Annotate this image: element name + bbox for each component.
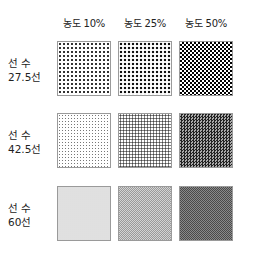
halftone-swatch-60-25 bbox=[118, 186, 172, 241]
halftone-swatch-42-5-10 bbox=[57, 113, 111, 168]
row-label-27-5: 선 수 27.5선 bbox=[8, 56, 50, 84]
row-label-title: 선 수 bbox=[8, 201, 50, 215]
row-label-title: 선 수 bbox=[8, 128, 50, 142]
row-label-value: 42.5선 bbox=[8, 142, 50, 156]
row-label-value: 60선 bbox=[8, 215, 50, 229]
column-header-density-50: 농도 50% bbox=[176, 15, 236, 30]
row-label-value: 27.5선 bbox=[8, 70, 50, 84]
halftone-swatch-60-50 bbox=[179, 186, 233, 241]
halftone-swatch-42-5-25 bbox=[118, 113, 172, 168]
row-label-60: 선 수 60선 bbox=[8, 201, 50, 229]
column-header-density-25: 농도 25% bbox=[115, 15, 175, 30]
row-label-title: 선 수 bbox=[8, 56, 50, 70]
row-label-42-5: 선 수 42.5선 bbox=[8, 128, 50, 156]
halftone-swatch-60-10 bbox=[57, 186, 111, 241]
halftone-swatch-42-5-50 bbox=[179, 113, 233, 168]
halftone-swatch-27-5-10 bbox=[57, 41, 111, 96]
column-header-density-10: 농도 10% bbox=[54, 15, 114, 30]
halftone-swatch-27-5-50 bbox=[179, 41, 233, 96]
halftone-swatch-27-5-25 bbox=[118, 41, 172, 96]
